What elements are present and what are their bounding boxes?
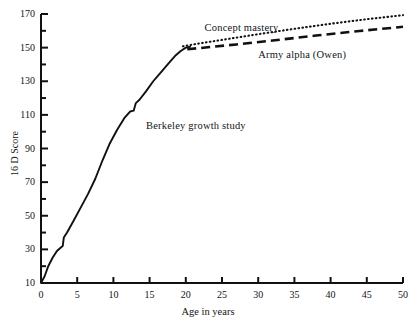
series-annotation: Concept mastery: [205, 22, 279, 33]
series-annotation: Army alpha (Owen): [258, 49, 346, 60]
x-tick-label: 25: [210, 289, 234, 300]
x-tick-label: 40: [319, 289, 343, 300]
axis-lines: [41, 14, 403, 283]
x-tick-label: 45: [355, 289, 379, 300]
y-tick-label: 90: [8, 143, 35, 154]
x-tick-label: 35: [282, 289, 306, 300]
y-axis-ticks: [41, 14, 48, 283]
y-tick-label: 130: [8, 75, 35, 86]
y-tick-label: 50: [8, 210, 35, 221]
series-annotation: Berkeley growth study: [146, 120, 246, 131]
x-tick-label: 0: [29, 289, 53, 300]
x-tick-label: 50: [391, 289, 415, 300]
y-tick-label: 110: [8, 109, 35, 120]
chart-canvas: [0, 0, 416, 326]
x-tick-label: 30: [246, 289, 270, 300]
y-tick-label: 170: [8, 8, 35, 19]
x-tick-label: 20: [174, 289, 198, 300]
x-tick-label: 5: [65, 289, 89, 300]
y-tick-label: 70: [8, 176, 35, 187]
series-line-berkeley-growth-study: [41, 47, 190, 283]
x-tick-label: 15: [138, 289, 162, 300]
data-series-group: [41, 15, 403, 283]
y-tick-label: 10: [8, 277, 35, 288]
x-tick-label: 10: [101, 289, 125, 300]
y-tick-label: 150: [8, 42, 35, 53]
y-tick-label: 30: [8, 243, 35, 254]
x-axis-title: Age in years: [0, 306, 416, 317]
